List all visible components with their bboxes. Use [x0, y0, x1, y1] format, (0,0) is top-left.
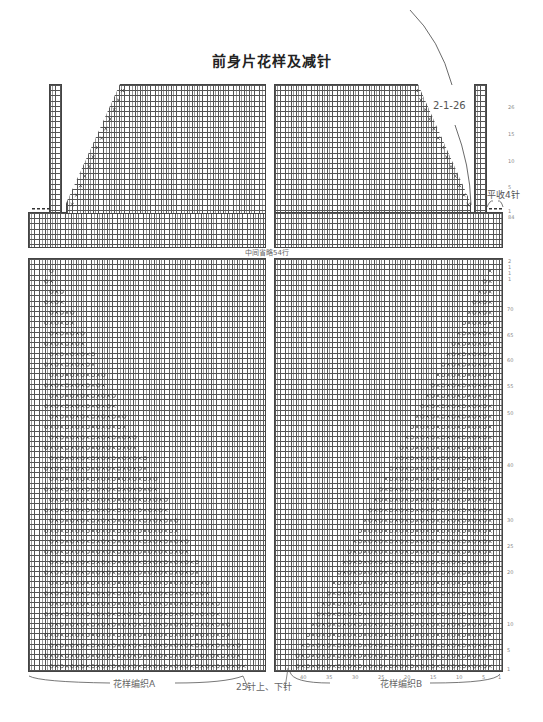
lower-row-number: 55 [507, 383, 513, 389]
flat-bind-bracket [487, 201, 503, 207]
lace-pattern-b [296, 269, 492, 667]
column-number: 10 [456, 674, 462, 680]
column-number: 30 [352, 674, 358, 680]
lower-row-number: 30 [507, 517, 513, 523]
column-number: 40 [300, 674, 306, 680]
lower-row-number: 1 [507, 666, 510, 672]
decrease-leader-line-lower [455, 125, 471, 205]
lower-top-mark: 1 [508, 276, 511, 282]
lower-row-number: 50 [507, 410, 513, 416]
lower-row-number: 10 [507, 621, 513, 627]
lower-row-number: 60 [507, 357, 513, 363]
lower-row-number: 25 [507, 543, 513, 549]
upper-row-number: 84 [508, 214, 514, 220]
center-rows-label: 中间省略54行 [245, 247, 289, 257]
flat-bind-label: 平收4针 [487, 188, 520, 201]
upper-row-number: 5 [508, 184, 511, 190]
decrease-rule-label: 2-1-26 [433, 100, 466, 111]
column-number: 35 [326, 674, 332, 680]
column-number: 25 [378, 674, 384, 680]
rib-note-label: 25针上、下针 [236, 680, 292, 693]
column-number: 1 [498, 674, 501, 680]
lower-row-number: 70 [507, 306, 513, 312]
decrease-leader-line [410, 10, 452, 85]
bind-off-marks [32, 208, 502, 210]
lower-row-number: 65 [507, 332, 513, 338]
lower-row-number: 40 [507, 462, 513, 468]
lower-row-number: 5 [507, 647, 510, 653]
upper-row-number: 10 [508, 158, 514, 164]
lace-pattern-a [45, 269, 246, 667]
upper-row-number: 26 [508, 104, 514, 110]
column-number: 5 [482, 674, 485, 680]
lower-row-number: 20 [507, 569, 513, 575]
neck-decrease-marks-left [71, 89, 125, 206]
column-number: 15 [430, 674, 436, 680]
column-number: 20 [404, 674, 410, 680]
pattern-a-label: 花样编织A [113, 677, 155, 690]
upper-row-number: 15 [508, 131, 514, 137]
pattern-b-label: 花样编织B [380, 677, 422, 690]
